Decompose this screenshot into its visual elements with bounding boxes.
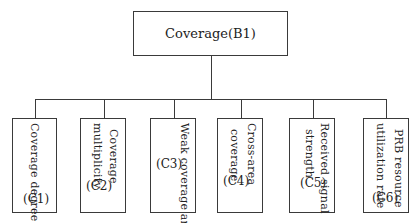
root-node-label: Coverage(B1) [165, 26, 256, 41]
connector-c6 [386, 99, 387, 118]
child-node-c4: Cross-area coverage (C4) [217, 118, 263, 213]
connector-c5 [313, 99, 314, 118]
child-node-label: Received signal [318, 123, 331, 214]
child-node-label: strength [303, 129, 316, 178]
connector-horizontal-bar [35, 99, 387, 100]
child-node-code: (C6) [372, 191, 398, 205]
connector-c1 [35, 99, 36, 118]
root-node-coverage: Coverage(B1) [133, 11, 288, 56]
connector-c2 [104, 99, 105, 118]
child-node-code: (C4) [223, 174, 249, 188]
child-node-code: (C5) [300, 176, 326, 190]
child-node-code: (C1) [23, 192, 49, 206]
child-node-label: Weak coverage area [178, 123, 191, 223]
connector-c3 [174, 99, 175, 118]
child-node-c6: PRB resource utilization rate (C6) [363, 118, 409, 213]
child-node-c1: Coverage degree (C1) [12, 118, 57, 213]
child-node-code: (C2) [86, 179, 112, 193]
child-node-c3: Weak coverage area (C3) [150, 118, 196, 213]
child-node-code: (C3) [156, 157, 182, 171]
connector-c4 [241, 99, 242, 118]
child-node-c5: Received signal strength (C5) [289, 118, 335, 213]
child-node-label: Coverage degree [28, 123, 41, 222]
child-node-label: Coverage [107, 129, 120, 184]
connector-root-stem [211, 56, 212, 100]
child-node-c2: Coverage multiplicity (C2) [80, 118, 126, 213]
